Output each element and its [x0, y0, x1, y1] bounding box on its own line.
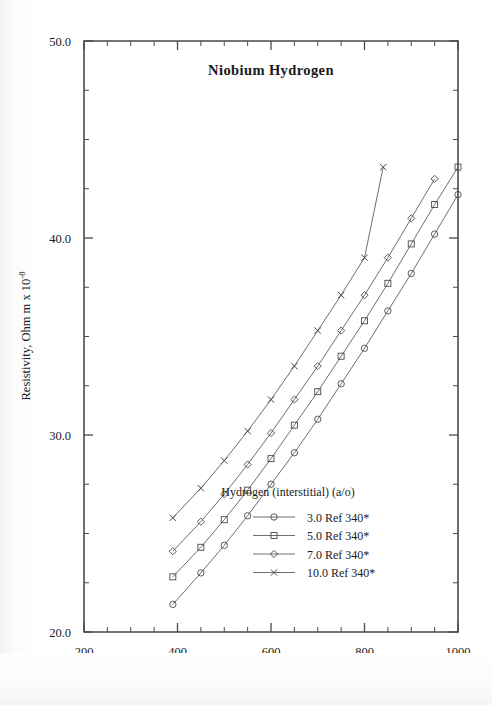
y-axis-ticks	[84, 41, 458, 632]
series-3	[170, 164, 387, 521]
legend-title: Hydrogen (interstitial) (a/o)	[221, 485, 354, 499]
legend-item-label: 3.0 Ref 340*	[307, 511, 369, 525]
data-marker-cross	[315, 327, 321, 333]
x-tick-label: 400	[168, 645, 187, 659]
chart-title: Niobium Hydrogen	[208, 62, 334, 78]
figure-container: 2004006008001000 20.030.040.050.0 Niobiu…	[0, 0, 492, 705]
data-marker-cross	[221, 457, 227, 463]
y-tick-label: 20.0	[49, 626, 71, 640]
y-axis-title: Resistivity, Ohm m x 10-8	[17, 272, 33, 401]
page-background: 2004006008001000 20.030.040.050.0 Niobiu…	[0, 0, 492, 705]
y-axis-tick-labels: 20.030.040.050.0	[49, 35, 71, 640]
x-tick-label: 800	[355, 645, 374, 659]
data-marker-cross	[291, 363, 297, 369]
data-marker-cross	[268, 396, 274, 402]
data-marker-cross	[244, 428, 250, 434]
x-tick-label: 200	[75, 645, 94, 659]
legend-item-label: 7.0 Ref 340*	[307, 548, 369, 562]
y-tick-label: 50.0	[49, 35, 71, 49]
chart-legend: Hydrogen (interstitial) (a/o)3.0 Ref 340…	[221, 485, 375, 580]
x-tick-label: 1000	[446, 645, 471, 659]
x-axis-title: Temperature, K	[232, 667, 310, 681]
legend-item-3[interactable]: 10.0 Ref 340*	[253, 566, 375, 580]
x-axis-ticks	[84, 41, 458, 632]
legend-item-2[interactable]: 7.0 Ref 340*	[253, 548, 369, 562]
svg-text:Resistivity, Ohm m x 10-8: Resistivity, Ohm m x 10-8	[17, 272, 33, 401]
y-tick-label: 40.0	[49, 232, 71, 246]
data-marker-cross	[338, 292, 344, 298]
y-tick-label: 30.0	[49, 429, 71, 443]
series-0	[170, 191, 462, 607]
x-axis-tick-labels: 2004006008001000	[75, 645, 471, 659]
data-marker-cross	[170, 515, 176, 521]
data-marker-cross	[361, 255, 367, 261]
resistivity-vs-temperature-chart: 2004006008001000 20.030.040.050.0 Niobiu…	[0, 0, 492, 705]
x-tick-label: 600	[262, 645, 281, 659]
legend-item-0[interactable]: 3.0 Ref 340*	[253, 511, 369, 525]
legend-item-1[interactable]: 5.0 Ref 340*	[253, 529, 369, 543]
data-marker-cross	[380, 164, 386, 170]
data-marker-cross	[198, 485, 204, 491]
legend-item-label: 5.0 Ref 340*	[307, 529, 369, 543]
legend-item-label: 10.0 Ref 340*	[307, 566, 375, 580]
axes-frame	[84, 41, 458, 632]
